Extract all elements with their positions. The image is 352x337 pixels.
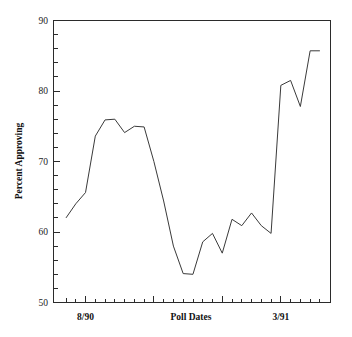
percent-approving-line-chart: 50 60 70 80 90 — [0, 0, 352, 337]
chart-container: 50 60 70 80 90 — [0, 0, 352, 337]
x-axis-title: Poll Dates — [171, 312, 212, 322]
y-axis-title: Percent Approving — [14, 123, 24, 200]
y-axis-tick-labels: 50 60 70 80 90 — [39, 16, 49, 308]
x-tick-label-end: 3/91 — [272, 312, 289, 322]
y-tick-label-80: 80 — [39, 86, 49, 96]
axis-frame-path — [54, 21, 331, 303]
data-series-line — [66, 51, 320, 274]
y-axis-ticks — [54, 21, 60, 303]
y-tick-label-50: 50 — [39, 298, 49, 308]
y-tick-label-70: 70 — [39, 157, 49, 167]
x-axis-ticks — [66, 296, 320, 303]
y-tick-label-60: 60 — [39, 227, 49, 237]
y-tick-label-90: 90 — [39, 16, 49, 26]
plot-frame — [54, 21, 331, 303]
x-tick-label-start: 8/90 — [77, 312, 94, 322]
